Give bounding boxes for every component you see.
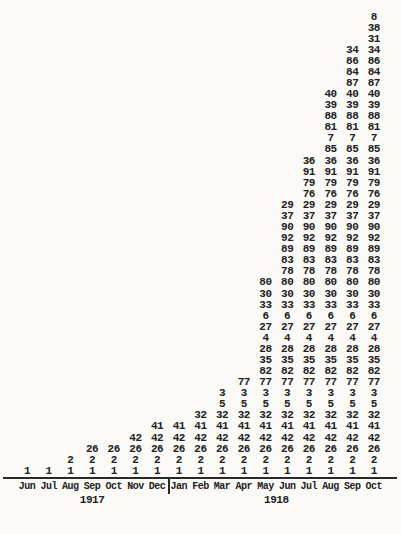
case-number-cell: 41 bbox=[361, 421, 387, 432]
case-number-cell: 6 bbox=[361, 311, 387, 322]
month-label: Oct bbox=[360, 481, 388, 492]
case-number-cell: 38 bbox=[361, 23, 387, 34]
case-number-cell: 1 bbox=[361, 466, 387, 477]
case-number-cell: 8 bbox=[361, 12, 387, 23]
case-number-cell: 31 bbox=[361, 34, 387, 45]
scanned-chart-page: 8383134348686848487874040403939398888888… bbox=[0, 0, 401, 534]
year-label: 1917 bbox=[70, 495, 114, 506]
case-number-cell: 36 bbox=[361, 156, 387, 167]
case-number-cell: 33 bbox=[361, 300, 387, 311]
case-number-cell: 85 bbox=[361, 144, 387, 155]
x-axis-line bbox=[3, 477, 397, 479]
year-label: 1918 bbox=[254, 495, 298, 506]
case-number-cell: 30 bbox=[361, 289, 387, 300]
case-number-cell: 91 bbox=[361, 167, 387, 178]
case-number-cell: 42 bbox=[361, 433, 387, 444]
case-number-cell: 26 bbox=[361, 444, 387, 455]
case-number-cell: 80 bbox=[361, 277, 387, 288]
